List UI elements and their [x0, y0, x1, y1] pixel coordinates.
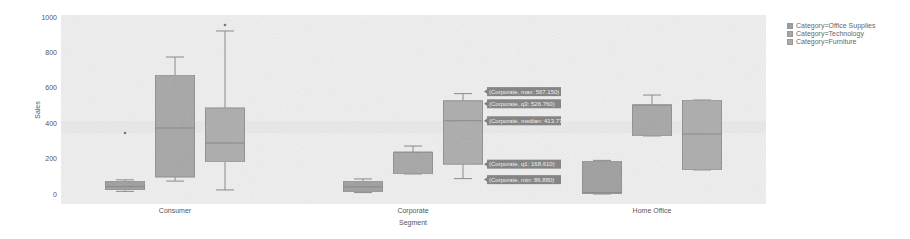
y-tick-label: 600 — [45, 84, 57, 91]
box-2-0[interactable] — [583, 160, 622, 194]
y-tick-label: 0 — [53, 191, 57, 198]
svg-text:(Corporate, min: 86.880): (Corporate, min: 86.880) — [489, 177, 554, 183]
y-axis: 02004006008001000 — [41, 14, 57, 198]
box — [394, 152, 433, 174]
box — [444, 101, 483, 164]
legend-label: Category=Furniture — [796, 38, 857, 46]
legend-label: Category=Technology — [796, 30, 864, 38]
svg-text:(Corporate, q3: 526.760): (Corporate, q3: 526.760) — [489, 101, 555, 107]
svg-text:(Corporate, max: 567.150): (Corporate, max: 567.150) — [489, 89, 559, 95]
box — [156, 75, 195, 177]
box — [106, 181, 145, 190]
legend-label: Category=Office Supplies — [796, 22, 875, 30]
box — [583, 161, 622, 194]
hover-label: (Corporate, max: 567.150) — [484, 87, 561, 96]
y-axis-title: Sales — [34, 101, 41, 119]
legend-item-office-supplies[interactable]: Category=Office Supplies — [787, 22, 875, 30]
box-1-0[interactable] — [344, 179, 383, 193]
y-tick-label: 200 — [45, 155, 57, 162]
x-tick-label: Home Office — [633, 207, 672, 214]
legend-item-technology[interactable]: Category=Technology — [787, 30, 875, 38]
box — [683, 100, 722, 170]
box-plot-chart: 02004006008001000 (Corporate, max: 567.1… — [0, 0, 910, 239]
x-tick-label: Consumer — [159, 207, 192, 214]
legend-item-furniture[interactable]: Category=Furniture — [787, 38, 875, 46]
legend-swatch-icon — [787, 39, 793, 45]
legend: Category=Office Supplies Category=Techno… — [787, 22, 875, 46]
hover-label: (Corporate, min: 86.880) — [484, 175, 561, 184]
legend-swatch-icon — [787, 31, 793, 37]
box — [206, 108, 245, 162]
hover-label: (Corporate, median: 413.775) — [484, 116, 568, 125]
legend-swatch-icon — [787, 23, 793, 29]
x-axis-title: Segment — [399, 219, 427, 227]
box-0-1[interactable] — [156, 57, 195, 181]
x-axis: ConsumerCorporateHome Office — [159, 207, 672, 215]
outlier-point[interactable] — [124, 132, 127, 135]
hover-label: (Corporate, q1: 168.610) — [484, 160, 561, 169]
hover-label: (Corporate, q3: 526.760) — [484, 99, 561, 108]
y-tick-label: 800 — [45, 49, 57, 56]
box — [633, 105, 672, 136]
y-tick-label: 1000 — [41, 14, 57, 21]
x-tick-label: Corporate — [397, 207, 428, 215]
svg-text:(Corporate, median: 413.775): (Corporate, median: 413.775) — [489, 118, 568, 124]
y-tick-label: 400 — [45, 120, 57, 127]
svg-text:(Corporate, q1: 168.610): (Corporate, q1: 168.610) — [489, 161, 555, 167]
box-2-2[interactable] — [683, 100, 722, 170]
outlier-point[interactable] — [224, 24, 227, 27]
